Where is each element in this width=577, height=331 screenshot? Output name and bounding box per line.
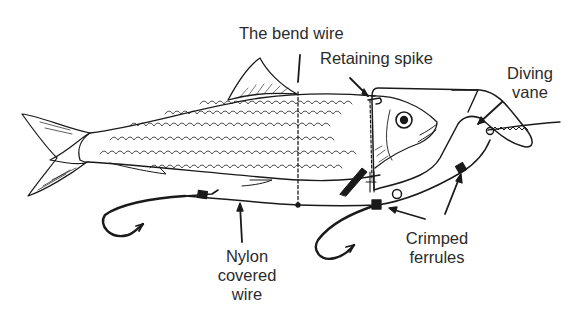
crimped-ferrule-left-hook (197, 190, 207, 198)
label-crimped-ferrules: Crimped ferrules (392, 229, 482, 267)
fish-rig-diagram (0, 0, 577, 331)
label-bend-wire: The bend wire (239, 24, 344, 43)
label-diving-vane: Diving vane (500, 64, 560, 102)
diving-vane (372, 88, 532, 190)
crimped-ferrule-right (456, 163, 467, 174)
pointer-bend-wire (298, 55, 300, 82)
tail-base (79, 133, 90, 162)
hook-left (103, 196, 185, 236)
hook-center (316, 205, 376, 259)
label-crimped-line2: ferrules (392, 248, 482, 267)
label-diving-vane-line2: vane (500, 83, 560, 102)
label-diving-vane-line1: Diving (500, 64, 560, 83)
scale-pattern (100, 101, 356, 168)
label-nylon-line1: Nylon (207, 247, 287, 266)
tail-fin (22, 114, 90, 196)
label-nylon-line3: wire (207, 285, 287, 304)
anal-fin (242, 180, 272, 186)
pelvic-fin (110, 163, 166, 174)
label-crimped-line1: Crimped (392, 229, 482, 248)
label-nylon-covered-wire: Nylon covered wire (207, 247, 287, 304)
label-retaining-spike: Retaining spike (320, 49, 433, 68)
dorsal-fin (228, 58, 297, 100)
label-nylon-line2: covered (207, 266, 287, 285)
